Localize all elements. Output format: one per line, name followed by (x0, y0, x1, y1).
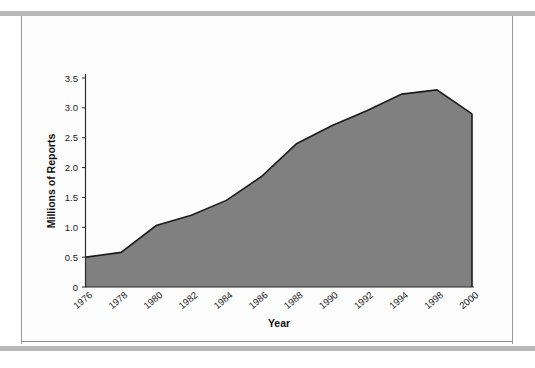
y-tick-label: 3.0 (65, 102, 78, 113)
x-tick-label: 1994 (387, 289, 410, 311)
x-axis-ticks: 1976197819801982198419861988199019921994… (71, 289, 480, 311)
y-tick-label: 3.5 (65, 73, 78, 84)
x-tick-label: 1998 (422, 289, 445, 311)
x-tick-label: 1984 (211, 289, 234, 311)
series-area-millions-of-reports (86, 90, 472, 287)
x-tick-label: 1982 (176, 289, 199, 311)
y-tick-label: 1.0 (65, 222, 78, 233)
y-tick-label: 0 (73, 282, 78, 293)
x-tick-label: 2000 (457, 289, 480, 311)
x-axis-title: Year (268, 317, 290, 329)
x-tick-label: 1992 (352, 289, 375, 311)
area-chart: 3.53.02.52.01.51.00.50 19761978198019821… (0, 0, 535, 368)
y-axis-title: Millions of Reports (45, 134, 57, 229)
x-tick-label: 1990 (317, 289, 340, 311)
y-axis-ticks: 3.53.02.52.01.51.00.50 (65, 73, 86, 293)
x-tick-label: 1980 (141, 289, 164, 311)
x-tick-label: 1986 (246, 289, 269, 311)
y-tick-label: 2.0 (65, 162, 78, 173)
x-tick-label: 1988 (282, 289, 305, 311)
y-tick-label: 0.5 (65, 252, 78, 263)
x-tick-label: 1978 (106, 289, 129, 311)
y-tick-label: 1.5 (65, 192, 78, 203)
y-tick-label: 2.5 (65, 132, 78, 143)
